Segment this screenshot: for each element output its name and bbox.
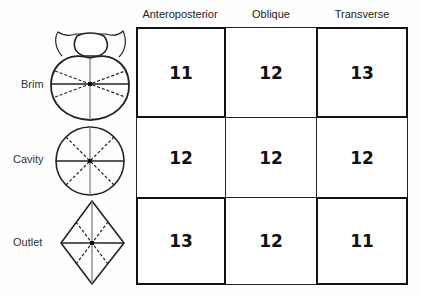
cell-outlet-oblique: 12 [225, 197, 317, 285]
column-header-oblique: Oblique [225, 8, 317, 20]
cell-brim-anteroposterior: 11 [136, 27, 226, 118]
row-label-brim: Brim [21, 78, 44, 90]
cell-outlet-anteroposterior: 13 [136, 197, 226, 285]
cell-outlet-transverse: 11 [316, 197, 408, 285]
row-label-outlet: Outlet [13, 236, 42, 248]
cell-brim-transverse: 13 [316, 27, 408, 118]
sacrum [74, 33, 107, 56]
cell-brim-oblique: 12 [225, 27, 317, 118]
outlet-diagram [61, 201, 124, 284]
cell-cavity-transverse: 12 [316, 117, 408, 198]
cavity-diagram [56, 127, 124, 195]
column-header-anteroposterior: Anteroposterior [134, 8, 226, 20]
column-header-transverse: Transverse [316, 8, 408, 20]
row-label-cavity: Cavity [13, 153, 44, 165]
brim-diagram [51, 31, 129, 120]
cell-cavity-anteroposterior: 12 [136, 117, 226, 198]
cell-cavity-oblique: 12 [225, 117, 317, 198]
